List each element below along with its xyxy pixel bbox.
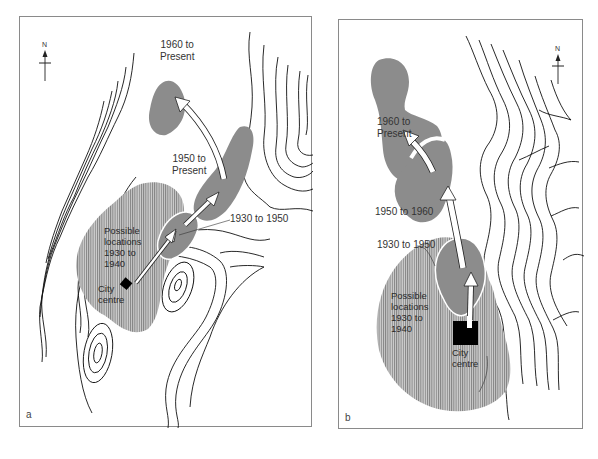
panel-letter-a: a xyxy=(26,409,32,420)
label-1930-1950: 1930 to 1950 xyxy=(377,239,435,251)
label-1960-present: 1960 to Present xyxy=(160,39,194,63)
north-label: N xyxy=(555,45,560,52)
label-city-centre: City centre xyxy=(98,283,124,305)
label-1950-present: 1950 to Present xyxy=(172,153,206,177)
north-arrow-icon xyxy=(552,54,564,84)
label-1960-present: 1960 to Present xyxy=(377,116,411,140)
map-panel-a: N 1960 to Present 1950 to Present 1930 t… xyxy=(19,16,312,427)
panel-letter-b: b xyxy=(345,412,351,423)
label-1930-1950: 1930 to 1950 xyxy=(230,213,288,225)
map-panel-b: N 1960 to Present 1950 to 1960 1930 to 1… xyxy=(338,19,583,429)
city-centre-marker xyxy=(453,321,478,345)
label-city-centre: City centre xyxy=(452,347,478,369)
label-possible-locations: Possible locations 1930 to 1940 xyxy=(391,290,429,334)
label-possible-locations: Possible locations 1930 to 1940 xyxy=(104,225,142,269)
north-arrow-icon xyxy=(39,50,51,81)
label-1950-1960: 1950 to 1960 xyxy=(375,206,433,218)
north-label: N xyxy=(42,41,47,48)
